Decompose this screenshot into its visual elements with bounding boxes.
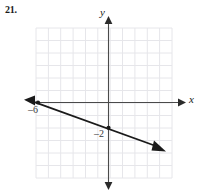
line-arrowhead-right bbox=[152, 141, 167, 152]
y-intercept-label: –2 bbox=[94, 128, 104, 139]
y-intercept-point bbox=[106, 126, 110, 130]
x-axis-arrowhead bbox=[178, 99, 186, 107]
coordinate-plane-figure bbox=[0, 0, 207, 192]
y-axis-label: y bbox=[100, 6, 105, 18]
x-axis-label: x bbox=[189, 93, 194, 105]
y-axis-arrowhead-top bbox=[105, 16, 113, 24]
y-axis-arrowhead-bottom bbox=[105, 182, 113, 190]
plotted-line bbox=[24, 96, 166, 152]
x-intercept-label: –6 bbox=[28, 104, 38, 115]
figure-page: 21. bbox=[0, 0, 207, 192]
x-axis bbox=[36, 99, 186, 107]
